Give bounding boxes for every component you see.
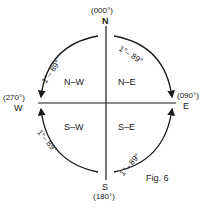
compass-quadrant-diagram [0, 0, 214, 207]
south-label: S [102, 182, 108, 192]
quadrant-se: S–E [118, 122, 135, 132]
west-bearing: (270°) [3, 93, 25, 103]
quadrant-sw: S–W [64, 122, 84, 132]
east-label: E [183, 101, 189, 111]
west-label: W [14, 103, 23, 113]
quadrant-nw: N–W [64, 77, 84, 87]
south-bearing: (180°) [93, 192, 115, 202]
north-bearing: (000°) [91, 6, 113, 16]
east-bearing: (090°) [177, 91, 199, 101]
quadrant-ne: N–E [118, 77, 136, 87]
arc-se [114, 109, 172, 172]
north-label: N [102, 16, 109, 26]
figure-caption: Fig. 6 [146, 173, 169, 183]
